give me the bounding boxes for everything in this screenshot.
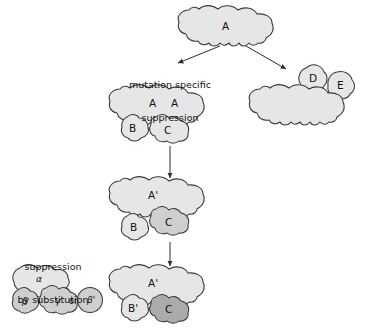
blob-sub-gamma bbox=[39, 285, 77, 314]
diagram-canvas: mutation specific suppression suppressio… bbox=[0, 0, 368, 328]
arrow-to-mutation-specific bbox=[178, 46, 220, 63]
blob-top-a bbox=[178, 6, 273, 46]
diagram-svg bbox=[0, 0, 368, 328]
arrow-to-right-branch bbox=[246, 46, 286, 69]
blob-sub-alternate-beta-prime bbox=[78, 288, 103, 313]
